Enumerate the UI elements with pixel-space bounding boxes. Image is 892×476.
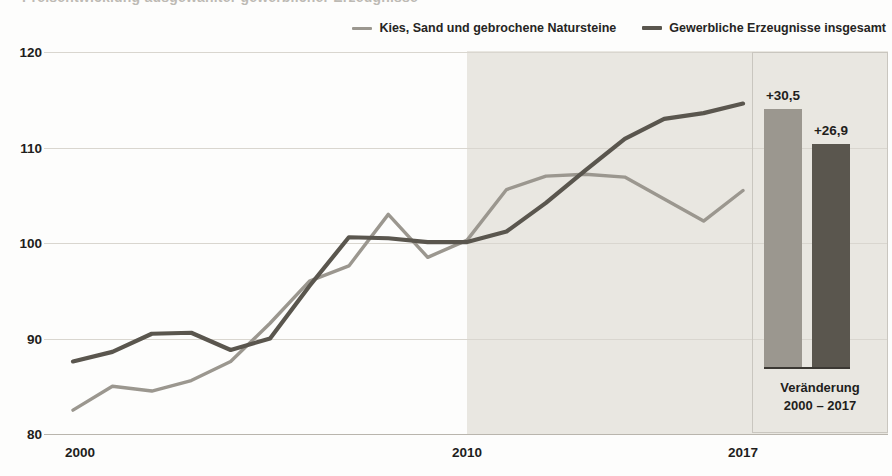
change-bar-gewerblich bbox=[812, 144, 850, 367]
change-panel: Veränderung 2000 – 2017 +30,5+26,9 bbox=[752, 52, 888, 433]
change-panel-caption: Veränderung 2000 – 2017 bbox=[753, 379, 887, 414]
change-bar-baseline bbox=[764, 367, 850, 369]
series-line-kies bbox=[73, 174, 743, 410]
change-caption-line-2: 2000 – 2017 bbox=[753, 397, 887, 415]
chart-canvas: Preisentwicklung ausgewählter gewerblich… bbox=[0, 0, 892, 476]
change-bar-value-label: +26,9 bbox=[806, 123, 856, 138]
change-bar-kies bbox=[764, 109, 802, 367]
change-caption-line-1: Veränderung bbox=[753, 379, 887, 397]
series-line-gewerblich bbox=[73, 104, 743, 362]
change-bar-value-label: +30,5 bbox=[758, 88, 808, 103]
